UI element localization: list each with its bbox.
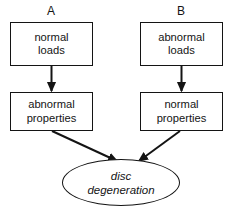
node-abnormal-properties-label: abnormal properties — [27, 98, 77, 125]
node-abnormal-loads-label: abnormal loads — [158, 31, 205, 58]
column-label-a: A — [31, 5, 71, 17]
node-normal-properties-label: normal properties — [157, 98, 207, 125]
node-normal-properties: normal properties — [140, 92, 223, 131]
node-normal-loads-label: normal loads — [34, 31, 68, 58]
node-abnormal-loads: abnormal loads — [140, 22, 223, 66]
arrow-a-bottom-to-outcome — [52, 131, 117, 161]
column-label-b: B — [161, 5, 201, 17]
node-normal-loads: normal loads — [10, 22, 93, 66]
node-abnormal-properties: abnormal properties — [10, 92, 93, 131]
arrow-b-bottom-to-outcome — [139, 131, 180, 161]
flowchart-diagram: A B normal loads abnormal loads abnormal… — [0, 0, 236, 212]
node-disc-degeneration: disc degeneration — [62, 159, 180, 206]
node-disc-degeneration-label: disc degeneration — [87, 169, 154, 197]
